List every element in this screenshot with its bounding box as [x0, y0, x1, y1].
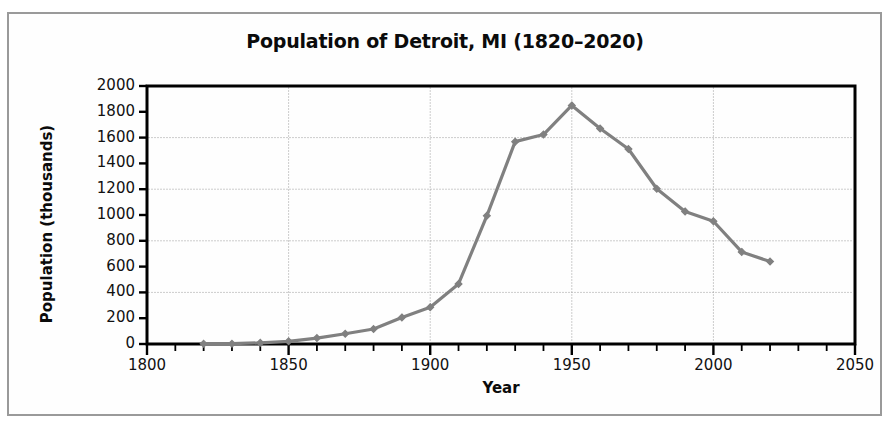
y-tick-label: 200	[45, 310, 135, 325]
data-point-markers	[200, 102, 773, 347]
x-tick-marks	[147, 344, 855, 355]
x-tick-label: 1800	[112, 358, 182, 373]
y-tick-label: 1200	[45, 181, 135, 196]
y-tick-label: 2000	[45, 78, 135, 93]
x-tick-label: 1950	[537, 358, 607, 373]
x-tick-label: 2000	[678, 358, 748, 373]
y-tick-label: 1600	[45, 130, 135, 145]
x-tick-label: 1850	[254, 358, 324, 373]
axes-frame	[147, 86, 855, 344]
y-tick-label: 400	[45, 284, 135, 299]
y-tick-label: 800	[45, 233, 135, 248]
x-tick-label: 1900	[395, 358, 465, 373]
gridlines	[149, 138, 854, 293]
y-tick-label: 1400	[45, 155, 135, 170]
data-line-series	[204, 105, 770, 343]
y-tick-label: 1800	[45, 104, 135, 119]
chart-figure: Population of Detroit, MI (1820–2020) Po…	[0, 0, 890, 429]
x-tick-label: 2050	[820, 358, 890, 373]
x-gridlines	[289, 88, 714, 343]
y-tick-label: 1000	[45, 207, 135, 222]
y-tick-label: 0	[45, 336, 135, 351]
y-tick-label: 600	[45, 259, 135, 274]
